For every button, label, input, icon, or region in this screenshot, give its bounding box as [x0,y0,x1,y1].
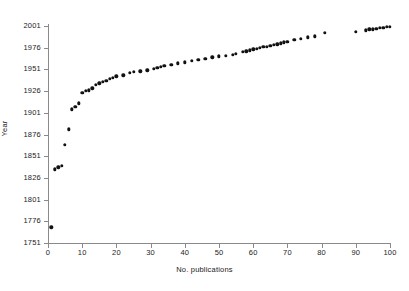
y-axis-tick [44,200,48,201]
x-axis-tick-label: 0 [33,249,63,257]
scatter-chart-figure: Year No. publications 175117761801182618… [0,0,409,291]
y-axis-tick [44,48,48,49]
x-axis-tick-label: 90 [341,249,371,257]
y-axis-tick [44,178,48,179]
y-axis-tick-label: 1776 [0,217,41,225]
y-axis-tick [44,113,48,114]
x-axis-tick-label: 50 [204,249,234,257]
x-axis-tick-label: 100 [375,249,405,257]
y-axis-tick [44,69,48,70]
y-axis-line [48,24,49,245]
x-axis-tick-label: 40 [170,249,200,257]
y-axis-tick-label: 1826 [0,174,41,182]
y-axis-tick-label: 2001 [0,22,41,30]
y-axis-tick-label: 1851 [0,152,41,160]
y-axis-tick [44,26,48,27]
y-axis-tick [44,221,48,222]
plot-area [48,26,390,243]
y-axis-tick [44,135,48,136]
y-axis-tick [44,91,48,92]
y-axis-tick-label: 1926 [0,87,41,95]
x-axis-tick-label: 20 [101,249,131,257]
data-point [388,25,391,28]
y-axis-tick-label: 1976 [0,44,41,52]
y-axis-tick-label: 1751 [0,239,41,247]
y-axis-tick-label: 1876 [0,131,41,139]
y-axis-tick-label: 1951 [0,65,41,73]
x-axis-title: No. publications [0,265,409,274]
x-axis-tick-label: 30 [136,249,166,257]
x-axis-tick-label: 70 [272,249,302,257]
y-axis-tick-label: 1901 [0,109,41,117]
x-axis-tick-label: 10 [67,249,97,257]
y-axis-tick [44,156,48,157]
x-axis-tick-label: 60 [238,249,268,257]
x-axis-tick-label: 80 [307,249,337,257]
y-axis-tick-label: 1801 [0,196,41,204]
